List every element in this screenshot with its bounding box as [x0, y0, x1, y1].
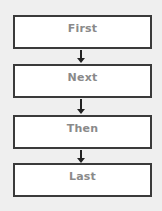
step-label: Next	[68, 71, 98, 84]
step-label: Then	[67, 122, 98, 135]
step-box-then: Then	[13, 115, 152, 149]
step-box-last: Last	[13, 163, 152, 197]
arrow-down-icon	[80, 150, 82, 159]
step-box-next: Next	[13, 64, 152, 98]
step-box-first: First	[13, 15, 152, 49]
step-label: First	[68, 22, 98, 35]
arrow-down-icon	[80, 99, 82, 110]
step-label: Last	[69, 170, 96, 183]
arrow-down-icon	[80, 50, 82, 59]
